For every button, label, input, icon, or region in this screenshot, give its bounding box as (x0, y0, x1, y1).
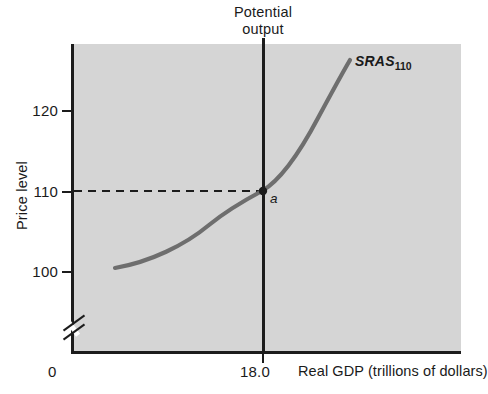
x-axis-title: Real GDP (trillions of dollars) (298, 364, 488, 379)
equilibrium-point-label: a (270, 192, 278, 206)
y-tick-110 (62, 191, 74, 193)
y-axis-line (71, 44, 74, 354)
y-tick-label-100: 100 (0, 264, 58, 279)
origin-label: 0 (48, 364, 56, 379)
potential-output-label-line1: Potential (234, 4, 292, 20)
sras-curve-label: SRAS110 (355, 54, 412, 73)
sras-curve (115, 60, 350, 268)
potential-output-line (262, 38, 265, 352)
y-axis-title: Price level (15, 141, 30, 251)
sras-curve-label-subscript: 110 (395, 60, 412, 72)
y-tick-100 (62, 271, 74, 273)
x-tick-label-18: 18.0 (240, 364, 270, 379)
y-axis-break-icon (60, 310, 88, 346)
x-axis-line (71, 351, 461, 354)
sras-curve-label-text: SRAS (355, 53, 395, 69)
potential-output-label-line2: output (242, 21, 284, 37)
x-tick-18 (262, 352, 264, 363)
y-tick-label-120: 120 (0, 103, 58, 118)
y-tick-120 (62, 110, 74, 112)
potential-output-label: Potential output (193, 4, 333, 38)
